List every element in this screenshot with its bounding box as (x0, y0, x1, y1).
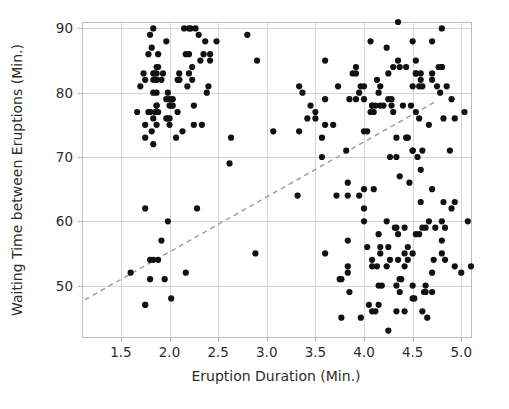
y-tick-label: 80 (56, 85, 73, 101)
data-point (165, 90, 171, 96)
data-point (452, 263, 458, 269)
data-point (128, 270, 134, 276)
data-point (387, 257, 393, 263)
data-point (358, 315, 364, 321)
x-tick-label: 3.0 (256, 344, 277, 360)
data-point (376, 231, 382, 237)
data-point (163, 38, 169, 44)
data-point (376, 302, 382, 308)
x-tick-label: 5.0 (451, 344, 472, 360)
data-point (395, 19, 401, 25)
data-point (432, 225, 438, 231)
data-point (397, 276, 403, 282)
data-point (429, 289, 435, 295)
data-point (333, 192, 339, 198)
data-point (179, 128, 185, 134)
data-point (204, 90, 210, 96)
data-point (361, 128, 367, 134)
data-point (150, 25, 156, 31)
data-point (173, 135, 179, 141)
data-point (184, 83, 190, 89)
data-point (295, 192, 301, 198)
data-point (395, 231, 401, 237)
data-point (207, 57, 213, 63)
data-point (426, 218, 432, 224)
data-point (155, 51, 161, 57)
data-point (384, 263, 390, 269)
data-point (175, 77, 181, 83)
data-point (419, 147, 425, 153)
data-point (429, 270, 435, 276)
data-point (401, 263, 407, 269)
data-point (345, 192, 351, 198)
data-point (345, 263, 351, 269)
data-point (244, 32, 250, 38)
data-point (461, 109, 467, 115)
data-point (390, 109, 396, 115)
data-point (134, 109, 140, 115)
data-point (142, 122, 148, 128)
data-point (162, 276, 168, 282)
data-point (411, 295, 417, 301)
data-point (152, 109, 158, 115)
plot-background (82, 22, 471, 337)
data-point (440, 199, 446, 205)
data-point (395, 57, 401, 63)
data-point (422, 282, 428, 288)
data-point (393, 135, 399, 141)
y-tick-label: 50 (56, 278, 73, 294)
data-point (165, 218, 171, 224)
data-point (153, 77, 159, 83)
data-point (153, 122, 159, 128)
data-point (384, 218, 390, 224)
data-point (418, 70, 424, 76)
data-point (429, 186, 435, 192)
data-point (254, 57, 260, 63)
data-point (436, 64, 442, 70)
data-point (361, 186, 367, 192)
data-point (400, 102, 406, 108)
data-point (343, 147, 349, 153)
data-point (377, 83, 383, 89)
data-point (388, 96, 394, 102)
data-point (361, 205, 367, 211)
x-tick-label: 2.0 (159, 344, 180, 360)
data-point (403, 64, 409, 70)
data-point (197, 57, 203, 63)
y-tick-label: 60 (56, 213, 73, 229)
data-point (452, 199, 458, 205)
data-point (191, 122, 197, 128)
data-point (194, 205, 200, 211)
data-point (338, 276, 344, 282)
data-point (388, 102, 394, 108)
data-point (150, 115, 156, 121)
data-point (312, 109, 318, 115)
data-point (189, 64, 195, 70)
data-point (175, 109, 181, 115)
data-point (196, 32, 202, 38)
data-point (442, 257, 448, 263)
x-tick-label: 2.5 (207, 344, 228, 360)
data-point (377, 250, 383, 256)
data-point (166, 96, 172, 102)
data-point (448, 205, 454, 211)
data-point (145, 109, 151, 115)
data-point (405, 244, 411, 250)
data-point (346, 289, 352, 295)
data-point (419, 225, 425, 231)
data-point (385, 70, 391, 76)
x-tick-label: 4.5 (402, 344, 423, 360)
data-point (414, 154, 420, 160)
data-point (418, 199, 424, 205)
data-point (147, 32, 153, 38)
data-point (181, 25, 187, 31)
data-point (385, 327, 391, 333)
data-point (468, 263, 474, 269)
scatter-plot-svg: 1.52.02.53.03.54.04.55.0 5060708090 Erup… (0, 0, 509, 409)
data-point (419, 83, 425, 89)
data-point (149, 128, 155, 134)
data-point (142, 205, 148, 211)
data-point (150, 141, 156, 147)
data-point (393, 282, 399, 288)
data-point (160, 70, 166, 76)
